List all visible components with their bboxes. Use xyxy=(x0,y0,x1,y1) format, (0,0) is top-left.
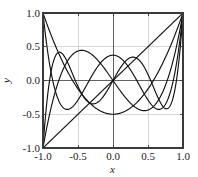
y-tick-label: 1.0 xyxy=(14,8,40,19)
y-tick-label: 0.0 xyxy=(14,75,40,86)
x-tick-label: -0.5 xyxy=(62,151,94,162)
y-tick-label: -0.5 xyxy=(14,109,40,120)
x-tick-label: 0.0 xyxy=(97,151,129,162)
y-tick-label: 0.5 xyxy=(14,41,40,52)
x-axis-title: x xyxy=(110,164,115,175)
x-tick-label: 0.5 xyxy=(132,151,164,162)
x-tick-label: -1.0 xyxy=(27,151,59,162)
legendre-polynomial-figure: 1.0 0.5 0.0 -0.5 -1.0 -1.0 -0.5 0.0 0.5 … xyxy=(0,0,198,177)
x-tick-label: 1.0 xyxy=(167,151,198,162)
y-axis-title: y xyxy=(1,78,12,83)
